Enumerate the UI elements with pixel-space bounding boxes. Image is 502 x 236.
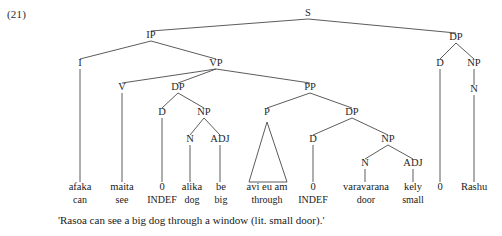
tree-branch-S-IP <box>151 19 308 31</box>
gloss-word-9: 0 <box>437 181 442 192</box>
tree-node-ADJ2: ADJ <box>403 157 422 168</box>
tree-node-NP2: NP <box>381 133 395 144</box>
tree-node-V: V <box>118 81 126 92</box>
tree-node-S: S <box>305 7 311 18</box>
tree-branch-VP-PP <box>216 69 310 83</box>
constituent-triangle-shape <box>249 122 287 182</box>
tree-node-D2: D <box>309 133 317 144</box>
gloss-word-3: alika <box>182 181 203 192</box>
gloss-meaning-0: can <box>73 194 87 205</box>
gloss-word-5: avi eu am <box>247 181 288 192</box>
gloss-meaning-5: through <box>251 194 282 205</box>
tree-node-VP: VP <box>209 57 223 68</box>
gloss-meaning-6: INDEF <box>298 194 328 205</box>
tree-node-PP: PP <box>304 81 316 92</box>
syntax-tree-svg: SIPDPIVPDNPVDPPPNDNPPDPNADJDNPNADJ afaka… <box>0 0 502 236</box>
gloss-word-0: afaka <box>69 181 92 192</box>
tree-edges <box>80 19 474 159</box>
tree-branch-IP-I <box>80 41 151 59</box>
gloss-word-4: be <box>216 181 226 192</box>
gloss-word-7: varavarana <box>343 181 389 192</box>
gloss-word-1: maita <box>110 181 134 192</box>
tree-node-DP2: DP <box>345 106 359 117</box>
tree-node-NP3: NP <box>467 57 481 68</box>
gloss-word-row: afakamaita0alikabeavi eu am0varavaranake… <box>69 181 488 192</box>
constituent-triangle <box>249 122 287 182</box>
tree-branch-S-DP3 <box>308 19 456 33</box>
gloss-meaning-7: door <box>357 194 376 205</box>
tree-node-D3: D <box>436 57 444 68</box>
tree-node-P: P <box>264 106 270 117</box>
tree-branch-IP-VP <box>151 41 216 59</box>
tree-node-ADJ1: ADJ <box>210 133 229 144</box>
gloss-meaning-3: dog <box>185 194 200 205</box>
gloss-word-10: Rashu <box>461 181 488 192</box>
tree-node-N3: N <box>470 83 478 94</box>
syntax-tree-figure: (21) SIPDPIVPDNPVDPPPNDNPPDPNADJDNPNADJ … <box>0 0 502 236</box>
gloss-word-6: 0 <box>310 181 315 192</box>
gloss-meaning-2: INDEF <box>147 194 177 205</box>
tree-node-DP1: DP <box>171 81 185 92</box>
tree-node-NP1: NP <box>197 106 211 117</box>
gloss-meaning-4: big <box>215 194 228 205</box>
tree-node-N2: N <box>361 157 369 168</box>
tree-node-labels: SIPDPIVPDNPVDPPPNDNPPDPNADJDNPNADJ <box>78 7 481 168</box>
tree-branch-DP2-D2 <box>313 118 352 135</box>
tree-node-N1: N <box>186 133 194 144</box>
tree-node-IP: IP <box>146 29 155 40</box>
gloss-word-2: 0 <box>159 181 164 192</box>
gloss-meaning-1: see <box>116 194 129 205</box>
tree-branch-PP-P <box>267 93 310 108</box>
tree-node-DP3: DP <box>449 31 463 42</box>
free-translation: 'Rasoa can see a big dog through a windo… <box>58 214 324 226</box>
tree-branch-VP-V <box>122 69 216 83</box>
tree-node-I: I <box>78 57 82 68</box>
gloss-meaning-8: small <box>402 194 424 205</box>
gloss-word-8: kely <box>404 181 423 192</box>
gloss-meaning-row: canseeINDEFdogbigthroughINDEFdoorsmall <box>73 194 424 205</box>
tree-node-D1: D <box>158 106 166 117</box>
